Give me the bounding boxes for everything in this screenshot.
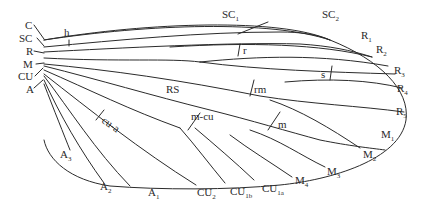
label-m-cu: m-cu xyxy=(191,110,214,122)
label-r1: R1 xyxy=(361,29,372,44)
label-m: M xyxy=(23,58,33,70)
label-cu1a: CU1a xyxy=(262,182,285,197)
label-h: h xyxy=(64,26,70,38)
leader-a xyxy=(34,80,43,88)
label-r4: R4 xyxy=(397,82,408,97)
vein-m3 xyxy=(250,130,325,167)
margin-labels: SC1SC2R1R2R3R4R5M1M2M3M4CU1aCU1bCU2A1A2A… xyxy=(60,8,408,201)
label-rs: RS xyxy=(166,83,179,95)
leader-cu xyxy=(35,68,43,76)
label-rm: rm xyxy=(254,83,267,95)
crossvein-r xyxy=(238,44,240,56)
label-c: C xyxy=(25,19,32,31)
label-a2: A2 xyxy=(100,180,112,195)
label-r-crossvein: r xyxy=(243,44,247,56)
vein-m4 xyxy=(230,135,292,177)
label-cu: CU xyxy=(18,70,33,82)
label-m1: M1 xyxy=(381,128,395,143)
label-sc2: SC2 xyxy=(322,8,339,23)
vein-rs xyxy=(44,58,200,62)
vein-a2 xyxy=(44,80,104,183)
vein-cu1b xyxy=(180,128,225,183)
vein-r2 xyxy=(200,57,388,66)
label-m3: M3 xyxy=(327,165,341,180)
label-sc1: SC1 xyxy=(222,8,239,23)
wing-venation-diagram: C SC R M CU A h r s rm m m-cu cu-a RS SC… xyxy=(0,0,422,206)
leader-sc xyxy=(37,38,44,46)
label-m-crossvein: m xyxy=(278,118,287,130)
leader-r xyxy=(34,51,44,53)
label-s: s xyxy=(321,68,325,80)
leader-c xyxy=(34,25,44,39)
vein-r1 xyxy=(170,44,372,57)
label-a: A xyxy=(26,83,34,95)
vein-cu1a xyxy=(195,128,254,180)
vein-media xyxy=(44,66,385,150)
label-r: R xyxy=(26,45,34,57)
label-m4: M4 xyxy=(295,174,309,189)
label-sc: SC xyxy=(19,32,32,44)
vein-r4 xyxy=(285,80,402,88)
crossvein-s xyxy=(330,66,332,80)
leader-m xyxy=(36,63,44,64)
label-r2: R2 xyxy=(376,43,387,58)
vein-r3 xyxy=(200,62,395,74)
vein-r5 xyxy=(44,64,404,112)
label-r3: R3 xyxy=(394,64,405,79)
